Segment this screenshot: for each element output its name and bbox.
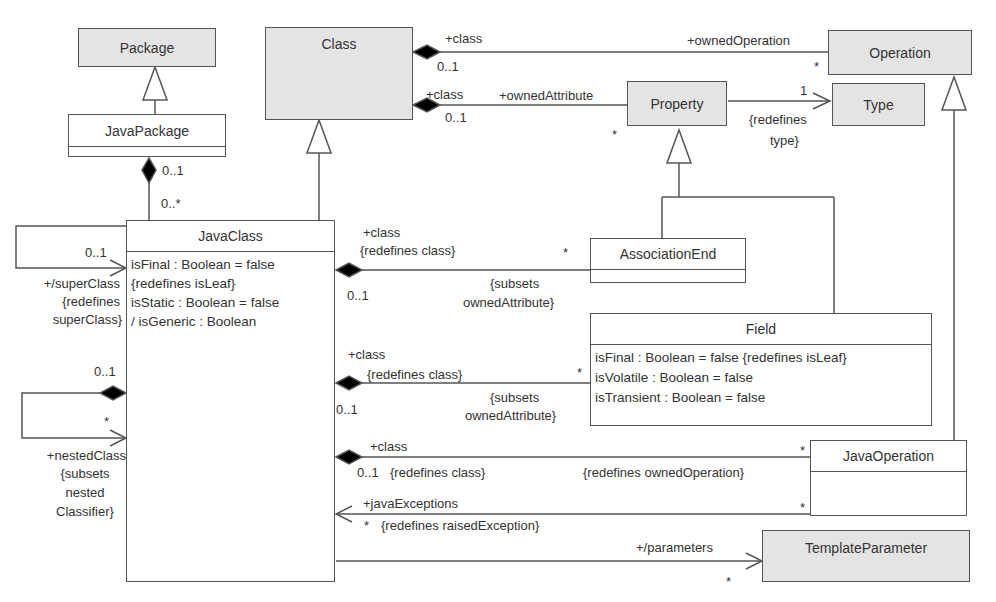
role-label: +ownedAttribute: [499, 88, 593, 103]
constraint-label: nested: [40, 485, 130, 500]
multiplicity-label: *: [104, 414, 109, 429]
multiplicity-label: *: [814, 59, 819, 74]
multiplicity-label: 0..1: [94, 364, 116, 379]
attribute: {redefines isLeaf}: [131, 274, 330, 293]
constraint-label: {redefines class}: [390, 465, 485, 480]
role-label: +nestedClass: [14, 448, 126, 463]
attribute: isStatic : Boolean = false: [131, 293, 330, 312]
java-class-name: JavaClass: [127, 221, 334, 252]
multiplicity-label: 0..1: [85, 245, 107, 260]
constraint-label: {redefines ownedOperation}: [583, 465, 744, 480]
constraint-label: type}: [770, 133, 799, 148]
java-package-name: JavaPackage: [69, 115, 225, 147]
constraint-label: ownedAttribute}: [465, 408, 556, 423]
field-class-box[interactable]: Field isFinal : Boolean = false {redefin…: [590, 313, 932, 426]
type-class-box[interactable]: Type: [832, 83, 925, 126]
template-parameter-class-box[interactable]: TemplateParameter: [762, 530, 970, 582]
operation-class-box[interactable]: Operation: [828, 30, 972, 75]
multiplicity-label: *: [800, 443, 805, 458]
constraint-label: {subsets: [490, 276, 539, 291]
class-name: Class: [266, 28, 412, 52]
role-label: +javaExceptions: [363, 496, 458, 511]
multiplicity-label: *: [612, 127, 617, 142]
multiplicity-label: *: [364, 518, 369, 533]
type-name: Type: [833, 84, 924, 125]
property-class-box[interactable]: Property: [627, 81, 727, 126]
attribute: isTransient : Boolean = false: [595, 388, 927, 408]
role-label: +class: [348, 347, 385, 362]
java-operation-name: JavaOperation: [811, 441, 966, 472]
attribute: isFinal : Boolean = false {redefines isL…: [595, 348, 927, 368]
multiplicity-label: *: [726, 574, 731, 589]
operation-name: Operation: [829, 31, 971, 74]
java-class-box[interactable]: JavaClass isFinal : Boolean = false {red…: [126, 220, 335, 582]
constraint-label: {redefines raisedException}: [381, 518, 539, 533]
multiplicity-label: *: [577, 365, 582, 380]
field-attributes: isFinal : Boolean = false {redefines isL…: [591, 345, 931, 411]
multiplicity-label: 1: [800, 83, 807, 98]
constraint-label: Classifier}: [40, 504, 130, 519]
constraint-label: {subsets: [40, 466, 130, 481]
multiplicity-label: 0..1: [347, 288, 369, 303]
multiplicity-label: *: [563, 245, 568, 260]
constraint-label: {redefines: [749, 112, 807, 127]
constraint-label: ownedAttribute}: [463, 295, 554, 310]
multiplicity-label: 0..*: [161, 196, 181, 211]
multiplicity-label: 0..1: [336, 402, 358, 417]
constraint-label: superClass}: [18, 312, 122, 327]
property-name: Property: [628, 82, 726, 125]
multiplicity-label: 0..1: [437, 59, 459, 74]
package-name: Package: [79, 29, 215, 66]
constraint-label: {redefines: [18, 294, 120, 309]
attribute: isFinal : Boolean = false: [131, 255, 330, 274]
association-end-class-box[interactable]: AssociationEnd: [590, 238, 746, 283]
constraint-label: {subsets: [490, 390, 539, 405]
attribute: isVolatile : Boolean = false: [595, 368, 927, 388]
field-name: Field: [591, 314, 931, 345]
template-parameter-name: TemplateParameter: [763, 531, 969, 556]
constraint-label: {redefines class}: [367, 367, 462, 382]
multiplicity-label: 0..1: [162, 163, 184, 178]
constraint-label: {redefines class}: [360, 243, 455, 258]
java-class-attributes: isFinal : Boolean = false {redefines isL…: [127, 252, 334, 334]
association-end-name: AssociationEnd: [591, 239, 745, 270]
class-metaclass-box[interactable]: Class: [265, 27, 413, 120]
package-class-box[interactable]: Package: [78, 28, 216, 67]
java-package-class-box[interactable]: JavaPackage: [68, 114, 226, 157]
role-label: +/superClass: [18, 276, 120, 291]
multiplicity-label: *: [800, 500, 805, 515]
attribute: / isGeneric : Boolean: [131, 312, 330, 331]
role-label: +class: [445, 31, 482, 46]
role-label: +class: [370, 439, 407, 454]
role-label: +class: [426, 87, 463, 102]
role-label: +/parameters: [636, 540, 713, 555]
role-label: +ownedOperation: [687, 33, 790, 48]
role-label: +class: [363, 225, 400, 240]
multiplicity-label: 0..1: [445, 110, 467, 125]
java-operation-class-box[interactable]: JavaOperation: [810, 440, 967, 516]
multiplicity-label: 0..1: [357, 465, 379, 480]
